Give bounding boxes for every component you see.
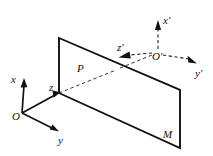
ray-p-segment-front — [59, 70, 116, 93]
geometry-figure: x y z O x′ y′ z′ O′ P M — [0, 0, 213, 156]
label-xprime-axis: x′ — [162, 14, 171, 26]
axis-y-line — [22, 113, 52, 128]
axis-yprime-arrowhead — [188, 56, 197, 64]
label-y-axis: y — [57, 134, 63, 146]
axis-zprime-line — [130, 53, 152, 55]
axis-x-line — [22, 85, 24, 113]
label-plane-m: M — [162, 128, 173, 140]
label-origin-prime: O′ — [152, 50, 163, 62]
axis-y-arrowhead — [50, 125, 60, 132]
label-z-axis: z — [48, 81, 54, 93]
label-zprime-axis: z′ — [116, 41, 124, 53]
label-x-axis: x — [10, 73, 16, 85]
axis-xprime-arrowhead — [155, 20, 161, 30]
label-origin: O — [12, 110, 20, 122]
axis-z-line — [22, 95, 55, 113]
axis-x-arrowhead — [21, 78, 28, 88]
label-point-p: P — [76, 62, 84, 74]
axis-yprime-line — [163, 55, 189, 59]
figure-canvas: x y z O x′ y′ z′ O′ P M — [0, 0, 213, 156]
label-yprime-axis: y′ — [194, 67, 203, 79]
